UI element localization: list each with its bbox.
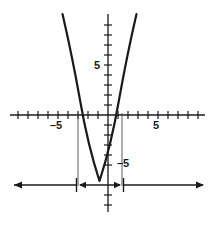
parabola-curve-group <box>63 14 137 181</box>
y-axis-label-positive-five: 5 <box>94 60 100 71</box>
right-ray <box>124 178 205 192</box>
graph-figure: –5 5 5 –5 <box>0 0 216 226</box>
coordinate-plane-svg <box>0 0 216 226</box>
axes-group <box>10 14 205 212</box>
x-axis-label-positive-five: 5 <box>153 120 159 131</box>
middle-interval <box>79 182 121 188</box>
y-axis-label-negative-five: –5 <box>117 158 129 169</box>
left-ray <box>14 178 77 192</box>
x-axis-label-negative-five: –5 <box>50 120 62 131</box>
parabola-curve <box>63 14 137 181</box>
solution-number-line <box>14 178 204 192</box>
